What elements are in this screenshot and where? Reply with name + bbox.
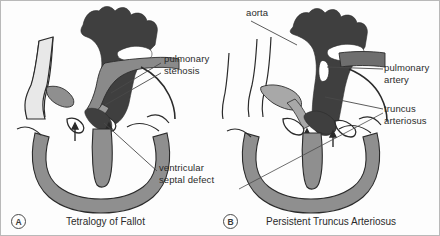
caption-text-b: Persistent Truncus Arteriosus <box>266 216 396 227</box>
label-aorta: aorta <box>246 7 268 18</box>
panel-marker-b-letter: B <box>227 217 233 227</box>
label-aorta-line1: aorta <box>246 7 268 18</box>
panel-marker-b: B <box>223 214 238 229</box>
label-pulmonary-artery-line2: artery <box>384 74 409 85</box>
heart-diagram-tetralogy-of-fallot <box>1 1 221 236</box>
label-pulmonary-artery-line1: pulmonary <box>384 62 429 73</box>
caption-panel-b: B Persistent Truncus Arteriosus <box>223 214 396 229</box>
label-ventricular-septal-defect-line1: ventricular <box>159 162 204 173</box>
label-truncus-arteriosus-line1: truncus <box>384 103 416 114</box>
caption-panel-a: A Tetralogy of Fallot <box>11 214 145 229</box>
truncal-valve-slit-b <box>319 60 329 81</box>
interventricular-septum-b <box>302 133 322 189</box>
interventricular-septum-a <box>92 129 112 187</box>
label-ventricular-septal-defect-line2: septal defect <box>159 174 214 185</box>
label-ventricular-septal-defect: ventricular septal defect <box>159 162 214 185</box>
label-pulmonary-stenosis: pulmonary stenosis <box>164 53 209 76</box>
pulmonary-artery-band-b <box>339 52 385 68</box>
label-pulmonary-artery: pulmonary artery <box>384 62 429 85</box>
great-vessel-outlines-b <box>222 37 271 119</box>
leader-line-aorta <box>251 21 297 45</box>
panel-marker-a: A <box>11 214 26 229</box>
left-atrial-appendage-a <box>46 86 73 107</box>
panel-tetralogy-of-fallot: pulmonary stenosis ventricular septal de… <box>1 1 221 236</box>
label-pulmonary-stenosis-line2: stenosis <box>164 65 200 76</box>
panel-marker-a-letter: A <box>15 217 21 227</box>
figure-container: pulmonary stenosis ventricular septal de… <box>0 0 440 236</box>
label-truncus-arteriosus: truncus arteriosus <box>384 103 427 126</box>
panel-persistent-truncus-arteriosus: aorta pulmonary artery truncus arteriosu… <box>221 1 440 236</box>
pulmonary-artery-branch-b <box>349 69 387 121</box>
label-truncus-arteriosus-line2: arteriosus <box>384 115 427 126</box>
label-pulmonary-stenosis-line1: pulmonary <box>164 53 209 64</box>
caption-text-a: Tetralogy of Fallot <box>66 216 145 227</box>
